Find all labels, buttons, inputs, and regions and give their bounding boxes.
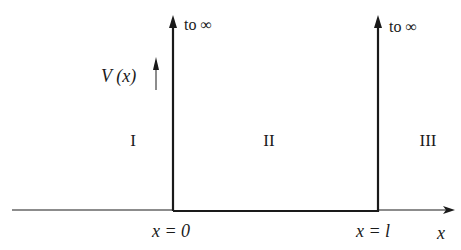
left-wall-arrow-icon bbox=[169, 15, 177, 28]
y-axis-label: V (x) bbox=[101, 66, 136, 87]
right-wall-arrow-icon bbox=[374, 15, 382, 28]
region-label-1: I bbox=[130, 131, 136, 150]
region-label-2: II bbox=[263, 131, 275, 150]
right-wall bbox=[374, 15, 382, 212]
potential-well-diagram: to ∞ to ∞ V (x) I II III x = 0 x = l x bbox=[0, 0, 461, 250]
right-wall-position-label: x = l bbox=[355, 221, 390, 241]
left-wall bbox=[169, 15, 177, 211]
left-wall-position-label: x = 0 bbox=[151, 221, 190, 241]
right-wall-top-label: to ∞ bbox=[389, 18, 417, 35]
x-axis-label: x bbox=[436, 223, 445, 243]
left-wall-top-label: to ∞ bbox=[184, 16, 212, 33]
x-axis bbox=[12, 206, 455, 214]
y-axis-arrow-icon bbox=[153, 57, 159, 90]
region-label-3: III bbox=[420, 131, 437, 150]
